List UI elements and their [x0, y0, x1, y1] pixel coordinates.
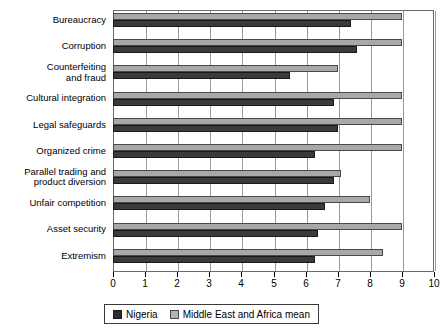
bar-nigeria	[113, 72, 290, 79]
axis-tick	[306, 272, 307, 277]
category-label-line: product diversion	[0, 177, 106, 188]
category-label-line: Asset security	[0, 224, 106, 235]
bar-nigeria	[113, 203, 325, 210]
axis-tick-label: 7	[328, 278, 348, 289]
axis-tick-label: 2	[167, 278, 187, 289]
bar-rows	[113, 10, 434, 272]
category-label: Legal safeguards	[0, 120, 106, 131]
axis-tick-label: 5	[264, 278, 284, 289]
category-label-line: Legal safeguards	[0, 120, 106, 131]
bar-nigeria	[113, 256, 315, 263]
legend-entry[interactable]: Middle East and Africa mean	[170, 309, 310, 320]
axis-tick-label: 8	[360, 278, 380, 289]
category-label: Bureaucracy	[0, 15, 106, 26]
category-label-line: Bureaucracy	[0, 15, 106, 26]
bar-group	[113, 167, 434, 193]
bar-nigeria	[113, 125, 338, 132]
category-label: Unfair competition	[0, 198, 106, 209]
axis-tick-label: 1	[135, 278, 155, 289]
axis-tick-label: 6	[296, 278, 316, 289]
bar-mea-mean	[113, 223, 402, 230]
category-label: Counterfeitingand fraud	[0, 62, 106, 83]
category-label-line: Organized crime	[0, 146, 106, 157]
bar-group	[113, 141, 434, 167]
bar-group	[113, 10, 434, 36]
legend-label: Middle East and Africa mean	[183, 309, 310, 320]
bar-group	[113, 193, 434, 219]
category-label: Cultural integration	[0, 93, 106, 104]
bar-mea-mean	[113, 92, 402, 99]
bar-group	[113, 36, 434, 62]
axis-tick	[241, 272, 242, 277]
bar-mea-mean	[113, 65, 338, 72]
bar-mea-mean	[113, 39, 402, 46]
axis-tick	[434, 272, 435, 277]
bar-mea-mean	[113, 170, 341, 177]
value-axis: 012345678910	[113, 272, 434, 294]
gridline-10	[435, 11, 436, 271]
category-label-line: Cultural integration	[0, 93, 106, 104]
bar-group	[113, 62, 434, 88]
bar-group	[113, 220, 434, 246]
bar-mea-mean	[113, 249, 383, 256]
legend-entry[interactable]: Nigeria	[113, 309, 158, 320]
bar-mea-mean	[113, 196, 370, 203]
legend-swatch-icon	[113, 310, 122, 319]
category-label-line: and fraud	[0, 73, 106, 84]
axis-tick	[113, 272, 114, 277]
axis-tick-label: 3	[199, 278, 219, 289]
bar-group	[113, 89, 434, 115]
axis-tick-label: 4	[231, 278, 251, 289]
bar-nigeria	[113, 46, 357, 53]
category-axis-labels: BureaucracyCorruptionCounterfeitingand f…	[0, 10, 110, 272]
chart-legend: NigeriaMiddle East and Africa mean	[104, 304, 319, 324]
category-label-line: Corruption	[0, 41, 106, 52]
axis-tick	[209, 272, 210, 277]
horizontal-bar-chart: BureaucracyCorruptionCounterfeitingand f…	[0, 0, 447, 331]
category-label-line: Extremism	[0, 251, 106, 262]
axis-tick	[145, 272, 146, 277]
category-label: Parallel trading andproduct diversion	[0, 167, 106, 188]
bar-mea-mean	[113, 144, 402, 151]
axis-tick-label: 0	[103, 278, 123, 289]
category-label: Corruption	[0, 41, 106, 52]
category-label: Extremism	[0, 251, 106, 262]
axis-tick	[402, 272, 403, 277]
axis-tick	[177, 272, 178, 277]
bar-nigeria	[113, 99, 334, 106]
bar-nigeria	[113, 20, 351, 27]
axis-tick	[370, 272, 371, 277]
bar-group	[113, 115, 434, 141]
bar-mea-mean	[113, 13, 402, 20]
axis-tick	[338, 272, 339, 277]
category-label-line: Unfair competition	[0, 198, 106, 209]
bar-nigeria	[113, 177, 334, 184]
category-label-line: Counterfeiting	[0, 62, 106, 73]
axis-tick	[274, 272, 275, 277]
category-label: Organized crime	[0, 146, 106, 157]
bar-group	[113, 246, 434, 272]
bar-nigeria	[113, 151, 315, 158]
legend-swatch-icon	[170, 310, 179, 319]
bar-nigeria	[113, 230, 318, 237]
axis-tick-label: 10	[424, 278, 444, 289]
axis-tick-label: 9	[392, 278, 412, 289]
legend-label: Nigeria	[126, 309, 158, 320]
bar-mea-mean	[113, 118, 402, 125]
category-label: Asset security	[0, 224, 106, 235]
